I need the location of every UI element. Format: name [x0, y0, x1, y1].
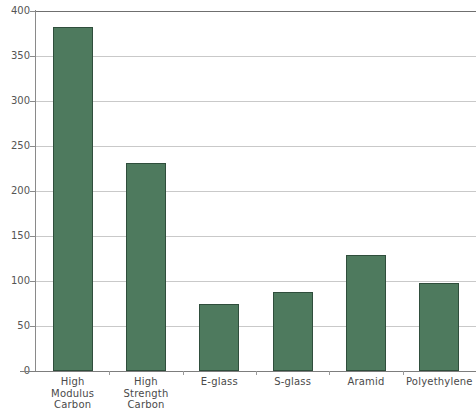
y-tick-label: 250 — [2, 141, 30, 151]
x-tick-mark — [109, 371, 110, 375]
bar-chart: 400350300250200150100500 HighModulusCarb… — [0, 0, 476, 413]
x-tick-mark — [183, 371, 184, 375]
y-tick-label: 400 — [2, 6, 30, 16]
x-axis-label-line: High — [109, 376, 182, 388]
x-axis-label: Aramid — [329, 376, 402, 388]
y-tick-label: 150 — [2, 231, 30, 241]
y-tick-label: 50 — [2, 321, 30, 331]
bar — [53, 27, 93, 371]
y-axis: 400350300250200150100500 — [0, 0, 30, 413]
bar — [419, 283, 459, 371]
x-axis-label-line: Aramid — [329, 376, 402, 388]
x-axis-label-line: Polyethylene — [403, 376, 476, 388]
bars-layer — [36, 11, 476, 371]
x-tick-mark — [403, 371, 404, 375]
x-axis-label-line: Modulus — [36, 388, 109, 400]
x-axis-label: Polyethylene — [403, 376, 476, 388]
bar — [126, 163, 166, 371]
y-tick-label: 300 — [2, 96, 30, 106]
x-axis-label: E-glass — [183, 376, 256, 388]
x-axis-label-line: Carbon — [109, 399, 182, 411]
x-axis-label: HighModulusCarbon — [36, 376, 109, 411]
x-tick-mark — [256, 371, 257, 375]
x-axis-label-line: Carbon — [36, 399, 109, 411]
x-axis-label-line: High — [36, 376, 109, 388]
y-tick-label: 100 — [2, 276, 30, 286]
bar — [273, 292, 313, 371]
y-tick-label: 350 — [2, 51, 30, 61]
x-tick-mark — [329, 371, 330, 375]
x-axis-label: S-glass — [256, 376, 329, 388]
x-axis-label: HighStrengthCarbon — [109, 376, 182, 411]
x-axis-labels: HighModulusCarbonHighStrengthCarbonE-gla… — [36, 376, 476, 413]
x-axis-line — [20, 371, 476, 372]
x-axis-label-line: E-glass — [183, 376, 256, 388]
bar — [199, 304, 239, 372]
bar — [346, 255, 386, 371]
x-axis-label-line: Strength — [109, 388, 182, 400]
y-tick-label: 200 — [2, 186, 30, 196]
x-axis-label-line: S-glass — [256, 376, 329, 388]
